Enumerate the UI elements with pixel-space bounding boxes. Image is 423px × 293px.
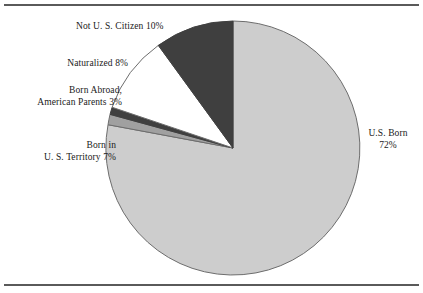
pie-label-not-us-citizen: Not U. S. Citizen 10% [76, 21, 164, 33]
pie-label-naturalized: Naturalized 8% [0, 58, 128, 70]
pie-label-us-born-line1: U.S. Born [357, 128, 419, 140]
pie-label-born-in-us-territory-line2: U. S. Territory 7% [0, 152, 116, 164]
pie-chart-figure: Not U. S. Citizen 10% Naturalized 8% Bor… [0, 0, 423, 293]
pie-label-us-born-line2: 72% [357, 140, 419, 152]
pie-label-not-us-citizen-line1: Not U. S. Citizen 10% [76, 21, 164, 33]
pie-label-us-born: U.S. Born 72% [357, 128, 419, 151]
pie-label-born-abroad-line2: American Parents 3% [0, 97, 122, 109]
pie-label-born-abroad-american-parents: Born Abroad, American Parents 3% [0, 85, 122, 108]
chart-plot-area: Not U. S. Citizen 10% Naturalized 8% Bor… [0, 0, 423, 293]
pie-label-born-in-us-territory-line1: Born in [0, 140, 116, 152]
pie-label-naturalized-line1: Naturalized 8% [0, 58, 128, 70]
pie-label-born-abroad-line1: Born Abroad, [0, 85, 122, 97]
pie-label-born-in-us-territory: Born in U. S. Territory 7% [0, 140, 116, 163]
bottom-divider-rule [4, 284, 419, 286]
